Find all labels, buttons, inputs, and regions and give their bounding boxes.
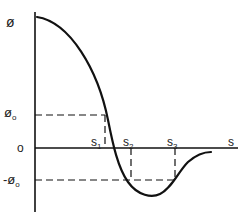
phi0-label: øo: [4, 106, 16, 122]
phi-curve: [37, 17, 211, 196]
neg-phi0-label: -øo: [3, 173, 20, 189]
diagram-canvas: [0, 0, 246, 221]
neg-phi0-subscript: o: [15, 180, 19, 189]
s2-subscript: 2: [129, 142, 133, 151]
s3-subscript: 3: [173, 142, 177, 151]
s1-subscript: 1: [97, 142, 101, 151]
s3-label: s3: [167, 136, 177, 151]
origin-label: o: [17, 142, 24, 154]
phi0-subscript: o: [12, 113, 16, 122]
x-axis-label: s: [228, 136, 234, 148]
y-axis-label: ø: [6, 15, 15, 29]
s1-label: s1: [91, 136, 101, 151]
s2-label: s2: [123, 136, 133, 151]
phi0-symbol: ø: [4, 105, 12, 120]
